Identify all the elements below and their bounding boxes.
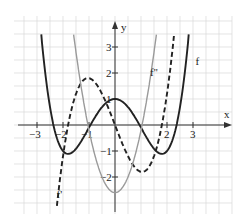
y-axis-arrow-icon — [112, 21, 118, 29]
y-tick-label: −1 — [100, 145, 112, 157]
grid — [14, 16, 232, 214]
x-axis-label: x — [224, 108, 230, 120]
curve-label: f'' — [150, 66, 158, 78]
curve-fp — [57, 33, 174, 206]
function-graph: x y −3−2−123321−1−2 ff'f'' — [0, 0, 239, 220]
x-tick-label: 3 — [190, 128, 196, 140]
y-tick-label: 2 — [106, 67, 112, 79]
curve-label: f' — [57, 188, 63, 200]
x-tick-label: −3 — [29, 128, 41, 140]
y-axis-label: y — [121, 21, 127, 33]
x-tick-label: 2 — [164, 128, 170, 140]
y-tick-label: 3 — [106, 41, 112, 53]
curve-label: f — [196, 55, 200, 67]
x-axis-arrow-icon — [224, 122, 232, 128]
